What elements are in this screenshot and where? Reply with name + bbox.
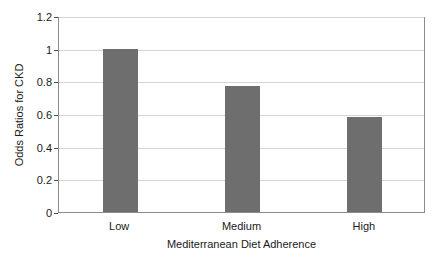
x-axis-tick-label: Medium (222, 220, 261, 232)
x-axis-title: Mediterranean Diet Adherence (58, 238, 425, 250)
y-axis-tick-label: 1.2 (18, 11, 52, 23)
bar (103, 49, 138, 212)
y-axis-tick-label: 1 (18, 44, 52, 56)
x-axis-tick-label: Low (109, 220, 129, 232)
y-axis-tick-label: 0 (18, 207, 52, 219)
y-axis-tick-mark (54, 50, 58, 51)
y-axis-tick-label: 0.2 (18, 174, 52, 186)
y-axis-tick-mark (54, 213, 58, 214)
y-axis-tick-label: 0.8 (18, 76, 52, 88)
x-axis-tick-label: High (353, 220, 376, 232)
plot-area (58, 17, 425, 213)
y-axis-tick-labels: 00.20.40.60.811.2 (18, 0, 52, 264)
y-axis-tick-mark (54, 180, 58, 181)
gridline (59, 17, 424, 18)
y-axis-tick-mark (54, 148, 58, 149)
bar (225, 86, 260, 212)
y-axis-tick-label: 0.6 (18, 109, 52, 121)
bar-chart: Odds Ratios for CKD 00.20.40.60.811.2 Lo… (0, 0, 445, 264)
y-axis-tick-mark (54, 17, 58, 18)
y-axis-tick-mark (54, 82, 58, 83)
y-axis-tick-mark (54, 115, 58, 116)
bar (347, 117, 382, 212)
y-axis-tick-label: 0.4 (18, 142, 52, 154)
